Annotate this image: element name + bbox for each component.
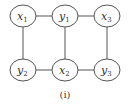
figure-caption: (i) <box>59 89 70 100</box>
graph-diagram: x1 y1 x3 y2 x2 y3 (i) <box>0 0 129 110</box>
